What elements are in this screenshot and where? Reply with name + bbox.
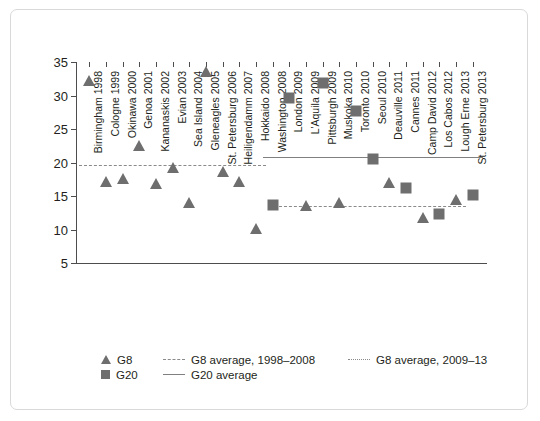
- x-axis-tick-label: Washington 2008: [277, 71, 288, 152]
- data-point-g20: [434, 209, 445, 220]
- y-axis-tick-label: 35: [54, 56, 68, 69]
- x-axis-tick: [289, 62, 290, 67]
- data-point-g8: [300, 200, 312, 211]
- plot-area: 5101520253035 Birmingham 1998Cologne 199…: [76, 62, 486, 263]
- x-axis-tick: [323, 62, 324, 67]
- x-axis-tick-label: Toronto 2010: [360, 71, 371, 132]
- legend-row: G8G8 average, 1998–2008G8 average, 2009–…: [101, 352, 501, 367]
- legend-marker-entry: G8: [101, 354, 163, 366]
- y-axis-tick-label: 20: [54, 156, 68, 169]
- y-axis-tick: [71, 263, 76, 264]
- x-axis-tick-label: Pittsburgh 2009: [327, 71, 338, 145]
- data-point-g8: [217, 166, 229, 177]
- legend-marker-entry: G20: [101, 369, 163, 381]
- data-point-g8: [83, 75, 95, 86]
- legend-extra-entry: G8 average, 2009–13: [348, 354, 501, 366]
- legend-line-entry: G8 average, 1998–2008: [163, 354, 348, 366]
- x-axis-tick: [339, 62, 340, 67]
- data-point-g20: [267, 200, 278, 211]
- x-axis-tick: [306, 62, 307, 67]
- dashed-line-icon: [163, 359, 185, 360]
- chart-frame: 5101520253035 Birmingham 1998Cologne 199…: [10, 9, 528, 410]
- legend-marker-label: G8: [117, 354, 132, 366]
- data-point-g20: [317, 77, 328, 88]
- data-point-g8: [167, 162, 179, 173]
- data-point-g20: [284, 93, 295, 104]
- x-axis-tick: [223, 62, 224, 67]
- legend-extra-label: G8 average, 2009–13: [376, 354, 487, 366]
- data-point-g8: [117, 173, 129, 184]
- y-axis-tick: [71, 96, 76, 97]
- x-axis-tick: [273, 62, 274, 67]
- x-axis-tick-label: Hokkaido 2008: [260, 71, 271, 141]
- triangle-marker-icon: [101, 355, 111, 364]
- y-axis-tick-label: 25: [54, 123, 68, 136]
- x-axis-tick-label: Cologne 1999: [110, 71, 121, 136]
- data-point-g8: [200, 66, 212, 77]
- x-axis-tick: [456, 62, 457, 67]
- y-axis-tick-label: 15: [54, 190, 68, 203]
- x-axis-line: [76, 263, 487, 264]
- y-axis-tick: [71, 196, 76, 197]
- data-point-g8: [150, 178, 162, 189]
- x-axis-tick-label: Lough Erne 2013: [460, 71, 471, 152]
- y-axis-tick-label: 30: [54, 89, 68, 102]
- chart-legend: G8G8 average, 1998–2008G8 average, 2009–…: [101, 352, 501, 382]
- data-point-g20: [367, 154, 378, 165]
- data-point-g8: [417, 212, 429, 223]
- y-axis-tick: [71, 163, 76, 164]
- x-axis-tick: [439, 62, 440, 67]
- y-axis-tick: [71, 62, 76, 63]
- x-axis-tick: [106, 62, 107, 67]
- x-axis-tick: [406, 62, 407, 67]
- legend-line-label: G8 average, 1998–2008: [191, 354, 315, 366]
- x-axis-tick-label: Kananaskis 2002: [160, 71, 171, 152]
- x-axis-tick: [89, 62, 90, 67]
- x-axis-tick-label: St. Petersburg 2006: [227, 71, 238, 164]
- x-axis-tick: [389, 62, 390, 67]
- dotted-line-icon: [348, 359, 370, 360]
- x-axis-tick-label: Gleneagles 2005: [210, 71, 221, 150]
- data-point-g20: [351, 105, 362, 116]
- x-axis-tick-label: London 2009: [293, 71, 304, 132]
- x-axis-tick-label: Okinawa 2000: [127, 71, 138, 138]
- x-axis-tick-label: Genoa 2001: [143, 71, 154, 129]
- x-axis-tick: [473, 62, 474, 67]
- x-axis-tick: [123, 62, 124, 67]
- data-point-g8: [333, 197, 345, 208]
- data-point-g8: [450, 194, 462, 205]
- data-point-g8: [183, 197, 195, 208]
- x-axis-tick-label: Deauville 2011: [393, 71, 404, 140]
- x-axis-tick: [173, 62, 174, 67]
- legend-line-label: G20 average: [191, 369, 258, 381]
- y-axis-tick-label: 10: [54, 223, 68, 236]
- y-axis-tick-label: 5: [61, 257, 68, 270]
- data-point-g8: [133, 140, 145, 151]
- x-axis-tick: [423, 62, 424, 67]
- x-axis-tick: [139, 62, 140, 67]
- x-axis-tick: [239, 62, 240, 67]
- x-axis-tick-label: Los Cabos 2012: [443, 71, 454, 147]
- legend-marker-label: G20: [116, 369, 138, 381]
- x-axis-tick: [189, 62, 190, 67]
- data-point-g8: [250, 223, 262, 234]
- x-axis-tick-label: Sea Island 2004: [193, 71, 204, 147]
- y-axis-tick: [71, 129, 76, 130]
- data-point-g20: [401, 182, 412, 193]
- x-axis-tick-label: Evian 2003: [177, 71, 188, 124]
- legend-line-entry: G20 average: [163, 369, 348, 381]
- x-axis-tick: [256, 62, 257, 67]
- data-point-g8: [100, 176, 112, 187]
- y-axis-tick: [71, 230, 76, 231]
- x-axis-tick-label: Seoul 2010: [377, 71, 388, 124]
- x-axis-tick-label: Cannes 2011: [410, 71, 421, 133]
- data-point-g20: [467, 190, 478, 201]
- data-point-g8: [233, 176, 245, 187]
- x-axis-tick-label: Camp David 2012: [427, 71, 438, 155]
- square-marker-icon: [101, 370, 110, 379]
- legend-row: G20G20 average: [101, 367, 501, 382]
- x-axis-tick-label: Heiligendamm 2007: [243, 71, 254, 164]
- x-axis-tick: [373, 62, 374, 67]
- x-axis-tick: [356, 62, 357, 67]
- solid-line-icon: [163, 374, 185, 375]
